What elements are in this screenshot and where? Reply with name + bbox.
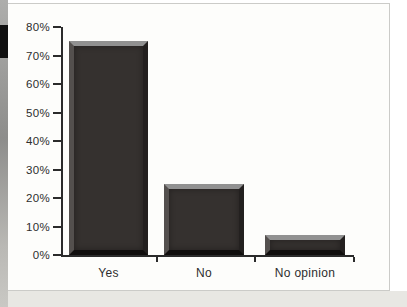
chart-panel: 0%10%20%30%40%50%60%70%80%YesNoNo opinio… bbox=[8, 3, 390, 291]
y-axis-label: 10% bbox=[10, 220, 50, 234]
page-bottom-band bbox=[0, 291, 407, 307]
y-axis-tick bbox=[53, 197, 61, 199]
y-axis-label: 0% bbox=[10, 248, 50, 262]
y-axis-tick bbox=[53, 254, 61, 256]
y-axis-tick bbox=[53, 140, 61, 142]
y-axis-label: 80% bbox=[10, 20, 50, 34]
x-axis-tick bbox=[156, 257, 158, 262]
y-axis-label: 30% bbox=[10, 163, 50, 177]
bar-yes bbox=[69, 41, 148, 255]
x-axis-tick bbox=[353, 257, 355, 262]
y-axis-label: 50% bbox=[10, 106, 50, 120]
bar-no-opinion bbox=[265, 235, 345, 255]
x-axis-label-yes: Yes bbox=[98, 266, 118, 280]
x-axis-label-no: No bbox=[196, 266, 212, 280]
x-axis-tick bbox=[254, 257, 256, 262]
y-axis-label: 60% bbox=[10, 77, 50, 91]
y-axis-tick bbox=[53, 226, 61, 228]
bar-no bbox=[164, 184, 244, 255]
y-axis-label: 20% bbox=[10, 191, 50, 205]
y-axis-label: 40% bbox=[10, 134, 50, 148]
x-axis-label-no-opinion: No opinion bbox=[275, 266, 335, 280]
y-axis-tick bbox=[53, 26, 61, 28]
y-axis-tick bbox=[53, 55, 61, 57]
plot-area: 0%10%20%30%40%50%60%70%80%YesNoNo opinio… bbox=[61, 27, 354, 257]
y-axis-tick bbox=[53, 112, 61, 114]
y-axis-tick bbox=[53, 83, 61, 85]
margin-highlight-mark bbox=[0, 25, 8, 58]
y-axis-tick bbox=[53, 169, 61, 171]
y-axis-label: 70% bbox=[10, 49, 50, 63]
page: 0%10%20%30%40%50%60%70%80%YesNoNo opinio… bbox=[0, 0, 407, 307]
